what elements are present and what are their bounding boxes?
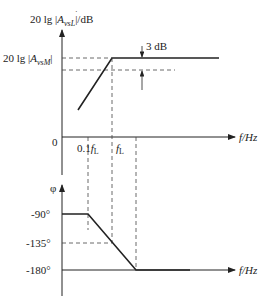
tick-minus90: -90° bbox=[31, 208, 50, 220]
x-axis-label: f/Hz bbox=[239, 131, 258, 143]
y-axis-label: 20 lg |AvsL|/dB bbox=[30, 13, 93, 28]
bode-diagram: 20 lg |AvsL|/dB · 20 lg |AvsM| 3 dB 0 f/… bbox=[0, 0, 273, 304]
tick-fL: fL bbox=[116, 142, 124, 156]
annotation-3db: 3 dB bbox=[146, 40, 167, 52]
magnitude-curve bbox=[78, 58, 219, 110]
dot-accent: · bbox=[75, 7, 78, 16]
magnitude-plot: 20 lg |AvsL|/dB · 20 lg |AvsM| 3 dB 0 f/… bbox=[3, 7, 258, 270]
tick-minus180: -180° bbox=[26, 264, 51, 276]
mid-gain-label: 20 lg |AvsM| bbox=[3, 52, 53, 67]
origin-label: 0 bbox=[52, 136, 58, 148]
phase-curve bbox=[62, 214, 190, 270]
phase-y-label: φ bbox=[50, 182, 56, 194]
tick-minus135: -135° bbox=[26, 237, 51, 249]
phase-plot: φ -90° -135° -180° f/Hz bbox=[26, 182, 258, 296]
phase-x-axis-label: f/Hz bbox=[239, 264, 258, 276]
tick-0.1fL: 0.1fL bbox=[77, 142, 99, 156]
